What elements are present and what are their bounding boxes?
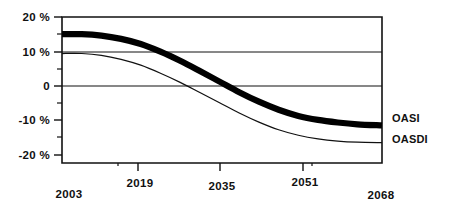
y-axis-label-0: 0 [43, 80, 50, 92]
x-axis-label-2019: 2019 [127, 177, 154, 189]
chart-screenshot: 20 % 10 % 0 -10 % -20 % 2003 2019 2035 2… [0, 0, 449, 212]
y-axis-label-minus-10: -10 % [18, 114, 50, 126]
y-axis-label-20: 20 % [23, 11, 50, 23]
x-axis-label-2003: 2003 [56, 188, 83, 200]
x-axis-label-2051: 2051 [292, 176, 319, 188]
x-axis-label-2068: 2068 [368, 189, 395, 201]
series-label-oasdi: OASDI [392, 133, 428, 145]
y-axis-label-minus-20: -20 % [18, 149, 50, 161]
series-label-oasi: OASI [392, 112, 420, 124]
y-axis-label-10: 10 % [23, 46, 50, 58]
x-axis-label-2035: 2035 [209, 180, 236, 192]
social-security-trust-fund-ratio-chart: 20 % 10 % 0 -10 % -20 % 2003 2019 2035 2… [0, 0, 449, 212]
